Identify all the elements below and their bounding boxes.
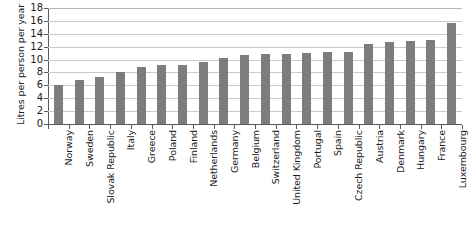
x-tick-mark (276, 125, 277, 129)
bar (426, 40, 435, 124)
y-tick-label-0: 0 (4, 119, 48, 129)
bar (199, 62, 208, 125)
bar (302, 53, 311, 124)
x-tick-label: Italy (125, 130, 137, 226)
x-tick-mark (462, 125, 463, 129)
x-tick-label: Austria (374, 130, 386, 226)
plot-area (48, 8, 462, 124)
y-tick-label-4: 4 (4, 93, 48, 103)
x-tick-mark (131, 125, 132, 129)
y-tick-label-12: 12 (4, 42, 48, 52)
bar (323, 52, 332, 124)
bar (95, 77, 104, 124)
x-tick-label: Netherlands (208, 130, 220, 226)
x-tick-label: Poland (167, 130, 179, 226)
y-tick-label-18: 18 (4, 3, 48, 13)
x-tick-mark (193, 125, 194, 129)
y-tick-label-2: 2 (4, 106, 48, 116)
bar (157, 65, 166, 124)
bar (447, 23, 456, 124)
x-tick-mark (48, 125, 49, 129)
x-tick-label: Denmark (395, 130, 407, 226)
x-tick-label: Finland (188, 130, 200, 226)
bar (261, 54, 270, 124)
y-tick-label-10: 10 (4, 55, 48, 65)
bar (137, 67, 146, 124)
x-tick-mark (400, 125, 401, 129)
bar (178, 65, 187, 124)
x-tick-mark (89, 125, 90, 129)
x-tick-label: Belgium (250, 130, 262, 226)
bar (282, 54, 291, 124)
y-tick-label-14: 14 (4, 29, 48, 39)
bar (240, 55, 249, 124)
bar (385, 42, 394, 124)
y-tick-label-6: 6 (4, 80, 48, 90)
x-tick-label: United Kingdom (291, 130, 303, 226)
x-tick-mark (234, 125, 235, 129)
x-tick-label: Czech Republic (353, 130, 365, 226)
y-axis-ticks: 024681012141618 (0, 8, 48, 124)
x-tick-label: Portugal (312, 130, 324, 226)
y-tick-label-16: 16 (4, 16, 48, 26)
y-tick-label-8: 8 (4, 67, 48, 77)
x-tick-mark (296, 125, 297, 129)
x-tick-mark (214, 125, 215, 129)
x-axis-labels: NorwaySwedenSlovak RepublicItalyGreecePo… (48, 130, 462, 230)
x-tick-label: Spain (332, 130, 344, 226)
bar (364, 44, 373, 124)
x-tick-label: Greece (146, 130, 158, 226)
bar (406, 41, 415, 124)
x-tick-mark (110, 125, 111, 129)
x-tick-mark (338, 125, 339, 129)
x-tick-mark (359, 125, 360, 129)
x-tick-mark (69, 125, 70, 129)
x-tick-label: Germany (229, 130, 241, 226)
x-axis-ticks (48, 125, 462, 129)
bar (75, 80, 84, 124)
bar (116, 72, 125, 124)
x-tick-label: Slovak Republic (105, 130, 117, 226)
x-tick-mark (421, 125, 422, 129)
x-tick-label: Luxembourg (457, 130, 469, 226)
x-tick-label: Sweden (84, 130, 96, 226)
x-tick-label: Switzerland (270, 130, 282, 226)
x-tick-mark (317, 125, 318, 129)
bar-series (48, 8, 462, 124)
bar (344, 52, 353, 124)
bar (54, 85, 63, 124)
x-tick-mark (172, 125, 173, 129)
x-tick-mark (255, 125, 256, 129)
bar (219, 58, 228, 124)
x-tick-mark (379, 125, 380, 129)
x-tick-mark (441, 125, 442, 129)
x-tick-mark (152, 125, 153, 129)
x-tick-label: Hungary (415, 130, 427, 226)
x-tick-label: France (436, 130, 448, 226)
x-tick-label: Norway (63, 130, 75, 226)
